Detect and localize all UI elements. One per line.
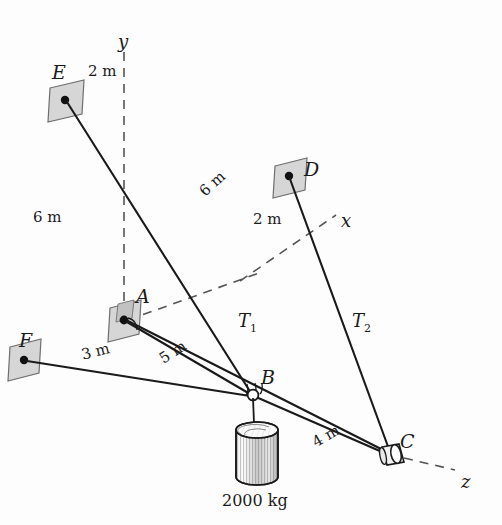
dimension-label-D-to-x: 2 m: [253, 212, 282, 227]
load-mass-label: 2000 kg: [222, 493, 288, 509]
mechanics-figure: y x z E D A F B C 2 m 6 m 2 m 6 m 3 m 5 …: [0, 0, 502, 525]
z-axis-line: [404, 458, 455, 470]
tension-T1-symbol: T: [238, 310, 250, 331]
point-label-A: A: [136, 287, 150, 306]
figure-canvas: [0, 0, 502, 525]
dimension-label-left-height: 6 m: [33, 210, 62, 225]
axis-label-z: z: [461, 473, 470, 491]
wall-bracket-E: [48, 80, 84, 122]
point-label-B: B: [261, 368, 275, 387]
axis-label-y: y: [118, 33, 128, 51]
point-label-D: D: [304, 160, 319, 179]
tension-T2-subscript: 2: [364, 322, 371, 335]
tension-label-T1: T1: [238, 312, 257, 334]
point-label-C: C: [400, 432, 415, 451]
point-label-E: E: [52, 63, 66, 82]
tension-label-T2: T2: [352, 312, 371, 334]
cable-lines: [27, 102, 390, 455]
suspended-load: [236, 398, 278, 485]
point-label-F: F: [19, 331, 32, 350]
axis-lines: [124, 52, 455, 470]
tension-T2-symbol: T: [352, 310, 364, 331]
member-AB: [127, 322, 250, 394]
dimension-label-E-to-y: 2 m: [88, 64, 117, 79]
tension-T1-subscript: 1: [250, 322, 257, 335]
axis-label-x: x: [341, 212, 351, 230]
